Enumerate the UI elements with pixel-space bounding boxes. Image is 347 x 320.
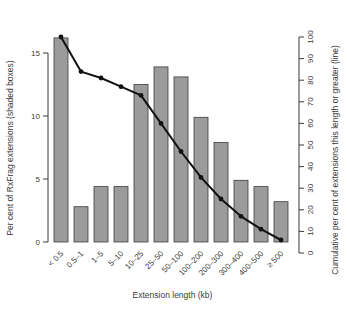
line-marker-11 (279, 238, 284, 243)
right-axis-title: Cumulative per cent of extensions this l… (330, 45, 340, 275)
x-tick-label: < 0.5 (46, 249, 65, 268)
right-axis-tick-label: 70 (306, 97, 315, 106)
x-tick-label: 1–5 (90, 249, 106, 265)
x-tick-label: 0.5–1 (65, 249, 86, 270)
bar-series (54, 38, 288, 242)
right-axis-tick-label: 10 (306, 226, 315, 235)
right-axis-tick-label: 20 (306, 205, 315, 214)
bar-0 (54, 38, 68, 242)
bar-5 (154, 67, 168, 242)
chart-figure: 0510150102030405060708090100< 0.50.5–11–… (0, 0, 347, 320)
line-marker-7 (199, 175, 204, 180)
right-axis-tick-label: 40 (306, 162, 315, 171)
bar-10 (254, 187, 268, 242)
left-axis-title: Per cent of RxFrag extensions (shaded bo… (5, 60, 15, 235)
line-marker-6 (179, 149, 184, 154)
bar-2 (94, 187, 108, 242)
right-axis-tick-label: 100 (306, 30, 315, 44)
left-axis-tick-label: 10 (31, 112, 40, 121)
left-axis-tick-label: 15 (31, 49, 40, 58)
right-axis-tick-label: 50 (306, 140, 315, 149)
bar-11 (274, 202, 288, 242)
right-axis-tick-label: 90 (306, 54, 315, 63)
line-marker-5 (159, 121, 164, 126)
line-marker-1 (79, 69, 84, 74)
left-axis: 051015 (31, 49, 48, 247)
right-axis-tick-label: 60 (306, 118, 315, 127)
line-marker-0 (59, 35, 64, 40)
left-axis-tick-label: 0 (36, 238, 41, 247)
x-tick-label: ≥ 500 (265, 249, 286, 270)
bar-line-chart: 0510150102030405060708090100< 0.50.5–11–… (0, 0, 347, 320)
right-axis: 0102030405060708090100 (299, 30, 315, 255)
left-axis-tick-label: 5 (36, 175, 41, 184)
line-marker-8 (219, 197, 224, 202)
right-axis-tick-label: 80 (306, 75, 315, 84)
right-axis-tick-label: 30 (306, 183, 315, 192)
line-series (59, 35, 284, 243)
right-axis-tick-label: 0 (306, 250, 315, 255)
line-marker-10 (259, 227, 264, 232)
bar-4 (134, 85, 148, 243)
bar-3 (114, 187, 128, 242)
line-marker-3 (119, 84, 124, 89)
x-tick-label: 10–25 (123, 249, 145, 271)
line-marker-2 (99, 76, 104, 81)
x-axis-labels: < 0.50.5–11–55–1010–2525–5050–100100–200… (46, 249, 285, 278)
line-marker-9 (239, 214, 244, 219)
line-marker-4 (139, 93, 144, 98)
bar-1 (74, 207, 88, 242)
x-axis-title: Extension length (kb) (133, 290, 213, 300)
